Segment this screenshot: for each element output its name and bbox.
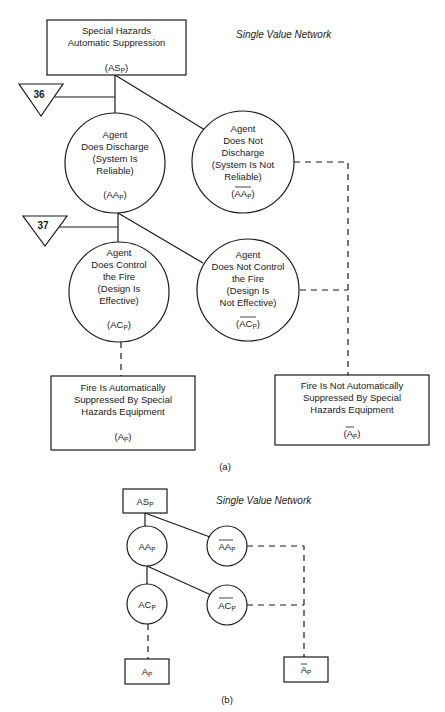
aa-not-line-3: Discharge <box>222 147 265 158</box>
transfer-triangle-36: 36 <box>19 84 63 116</box>
b-root-box: ASP <box>123 489 167 513</box>
dashed-path-b-aa-not-to-fail <box>247 546 304 657</box>
b-outcome-success-box: AP <box>125 659 169 684</box>
aa-line-1: Agent <box>103 129 128 140</box>
fail-line-2: Suppressed By Special <box>303 392 401 403</box>
ac-not-line-2: Does Not Control <box>212 261 285 272</box>
ac-not-line-3: the Fire <box>232 273 264 284</box>
aa-not-line-5: Reliable) <box>224 171 262 182</box>
ac-line-3: the Fire <box>103 271 135 282</box>
aa-not-line-2: Does Not <box>223 135 263 146</box>
ac-line-4: (Design Is <box>98 283 141 294</box>
root-line-1: Special Hazards <box>82 25 151 36</box>
b-node-aa-not: AAP <box>207 526 247 566</box>
root-symbol: (ASP) <box>105 62 128 74</box>
node-agent-discharge: Agent Does Discharge (System Is Reliable… <box>65 113 165 213</box>
ac-line-1: Agent <box>107 247 132 258</box>
root-line-2: Automatic Suppression <box>68 37 166 48</box>
b-node-ac: ACP <box>127 584 167 624</box>
fail-line-1: Fire Is Not Automatically <box>301 380 404 391</box>
fail-line-3: Hazards Equipment <box>310 404 394 415</box>
b-outcome-fail-box: AP <box>284 657 328 682</box>
ac-line-5: Effective) <box>99 295 138 306</box>
success-line-2: Suppressed By Special <box>74 394 172 405</box>
ac-not-line-4: (Design Is <box>227 285 270 296</box>
root-node-box: Special Hazards Automatic Suppression (A… <box>47 20 186 75</box>
caption-b: (b) <box>221 694 233 705</box>
ac-line-2: Does Control <box>91 259 146 270</box>
ac-not-line-5: Not Effective) <box>220 297 277 308</box>
diagram-a: Special Hazards Automatic Suppression (A… <box>19 20 429 472</box>
aa-not-line-4: (System Is Not <box>212 159 275 170</box>
success-line-3: Hazards Equipment <box>81 406 165 417</box>
aa-line-4: Reliable) <box>96 165 134 176</box>
node-agent-controls-fire: Agent Does Control the Fire (Design Is E… <box>69 242 169 342</box>
success-symbol: (AP) <box>114 431 131 443</box>
transfer-triangle-37: 37 <box>23 216 67 246</box>
network-label-a: Single Value Network <box>236 29 332 40</box>
diagram-b: ASP Single Value Network AAP AAP ACP ACP… <box>123 489 328 705</box>
aa-line-2: Does Discharge <box>81 141 149 152</box>
dashed-path-aa-not-to-fail <box>294 162 348 375</box>
node-agent-no-discharge: Agent Does Not Discharge (System Is Not … <box>192 111 294 213</box>
aa-line-3: (System Is <box>93 153 138 164</box>
network-label-b: Single Value Network <box>216 495 312 506</box>
triangle-37-label: 37 <box>37 220 49 231</box>
caption-a: (a) <box>219 461 231 472</box>
aa-symbol: (AAP) <box>103 189 126 201</box>
aa-not-line-1: Agent <box>231 123 256 134</box>
triangle-36-label: 36 <box>33 89 45 100</box>
success-line-1: Fire Is Automatically <box>81 382 166 393</box>
aa-not-symbol: (AAP) <box>231 188 254 200</box>
ac-symbol: (ACP) <box>107 319 131 331</box>
fail-symbol: (AP) <box>343 428 360 440</box>
ac-not-symbol: (ACP) <box>236 318 260 330</box>
outcome-not-suppressed-box: Fire Is Not Automatically Suppressed By … <box>275 375 429 445</box>
b-node-aa: AAP <box>127 526 167 566</box>
node-agent-no-control: Agent Does Not Control the Fire (Design … <box>197 239 299 341</box>
figure-canvas: Special Hazards Automatic Suppression (A… <box>0 0 445 712</box>
ac-not-line-1: Agent <box>236 249 261 260</box>
b-node-ac-not: ACP <box>207 585 247 625</box>
outcome-suppressed-box: Fire Is Automatically Suppressed By Spec… <box>51 376 195 450</box>
